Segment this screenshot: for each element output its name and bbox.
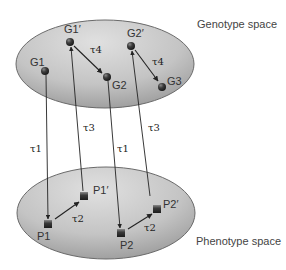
phenotype-space-label: Phenotype space xyxy=(196,235,281,247)
phenotype-node-p2 xyxy=(117,229,125,237)
genotype-node-g3 xyxy=(158,83,166,91)
edge-label-tau4-a: τ4 xyxy=(90,44,102,55)
edge-label-tau2-b: τ2 xyxy=(144,222,156,233)
node-label-g2: G2 xyxy=(112,79,127,91)
edge-label-tau3-a: τ3 xyxy=(83,122,95,133)
node-label-g1: G1 xyxy=(30,56,45,68)
edge-label-tau4-b: τ4 xyxy=(152,56,164,67)
node-label-g1-prime: G1′ xyxy=(64,23,81,35)
genotype-phenotype-diagram: Genotype space Phenotype space τ1 τ3 τ1 … xyxy=(0,0,286,270)
genotype-node-g2-prime xyxy=(127,42,135,50)
node-label-p1: P1 xyxy=(37,230,50,242)
edge-label-tau1-b: τ1 xyxy=(117,143,129,154)
phenotype-node-p1-prime xyxy=(80,192,88,200)
node-label-g2-prime: G2′ xyxy=(127,27,144,39)
edge-label-tau2-a: τ2 xyxy=(72,213,84,224)
genotype-node-g1-prime xyxy=(66,38,74,46)
genotype-space-label: Genotype space xyxy=(197,18,277,30)
phenotype-space-ellipse xyxy=(17,167,195,259)
node-label-p1-prime: P1′ xyxy=(93,184,109,196)
edge-label-tau1-a: τ1 xyxy=(30,143,42,154)
phenotype-node-p2-prime xyxy=(153,205,161,213)
node-label-p2: P2 xyxy=(120,239,133,251)
node-label-g3: G3 xyxy=(167,75,182,87)
genotype-node-g1 xyxy=(41,67,49,75)
edge-label-tau3-b: τ3 xyxy=(148,122,160,133)
phenotype-node-p1 xyxy=(44,220,52,228)
genotype-node-g2 xyxy=(103,73,111,81)
node-label-p2-prime: P2′ xyxy=(163,198,179,210)
